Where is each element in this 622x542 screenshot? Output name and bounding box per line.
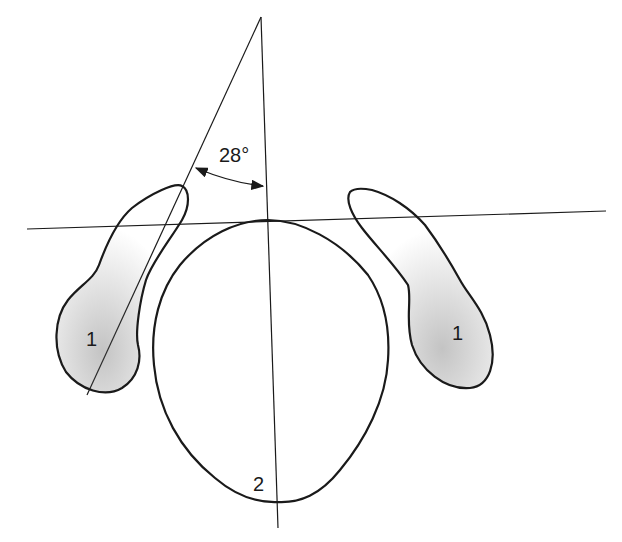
diagram-canvas: 28° 1 1 2 [0,0,622,542]
central-structure-label: 2 [253,473,264,495]
right-structure-1 [348,189,492,388]
angle-label: 28° [219,144,249,166]
horizontal-reference-line [27,211,606,229]
right-structure-label: 1 [452,322,463,344]
central-structure-2 [153,220,388,502]
angle-arc-arrow [196,168,263,186]
left-structure-label: 1 [86,328,97,350]
left-structure-1 [56,185,188,392]
vertical-axis-line [261,17,278,528]
anatomical-diagram: 28° 1 1 2 [0,0,622,542]
